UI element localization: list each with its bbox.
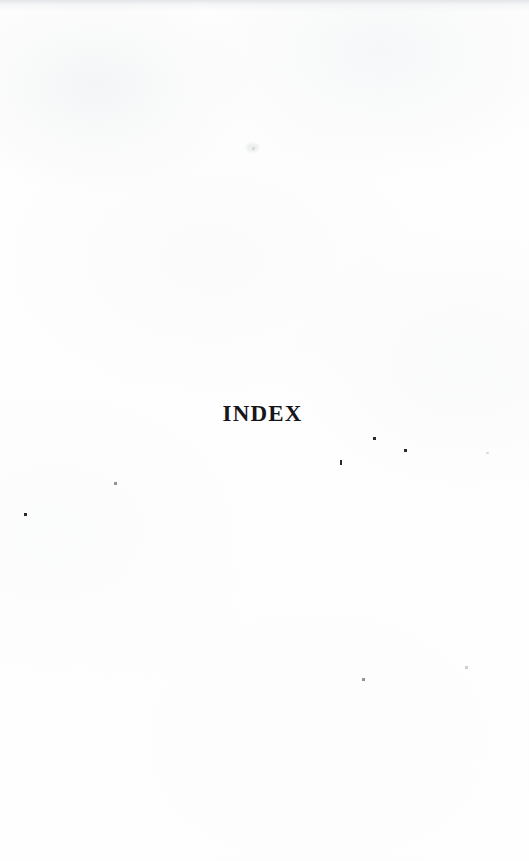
speck-far-right [486,452,489,454]
page-title: INDEX [223,402,303,426]
speck-bottom-mid [362,678,365,681]
speck-right-mid [404,449,407,452]
scan-smudge-artifact [246,143,259,152]
speck-left-upper [114,482,117,485]
scanned-page: INDEX [0,0,529,861]
section-title-block: INDEX [0,402,529,426]
speck-center-low [340,460,342,465]
speck-right-upper [373,437,376,440]
speck-bottom-right [465,666,468,669]
speck-left-lower [24,513,27,516]
scan-top-edge-band [0,0,529,11]
speck-upper-faint [252,147,255,150]
